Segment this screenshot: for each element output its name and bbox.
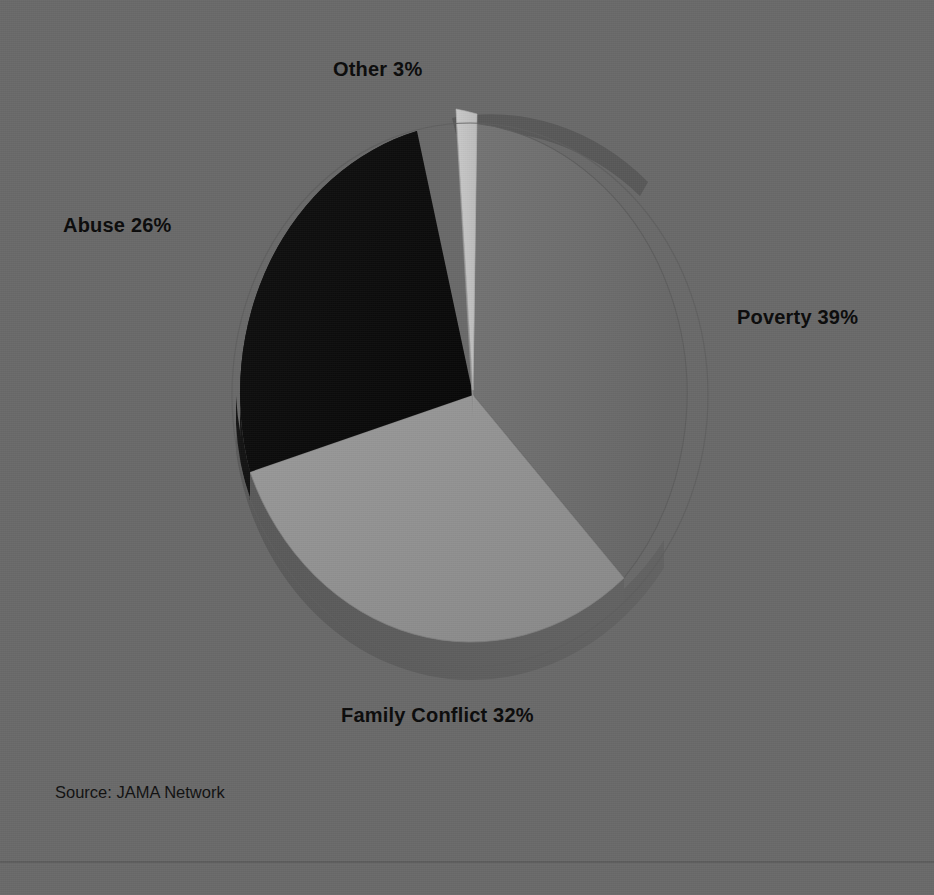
chart-page: Other 3% Abuse 26% Poverty 39% Family Co… (0, 0, 934, 895)
slice-label-family-conflict: Family Conflict 32% (341, 704, 534, 727)
slice-label-abuse: Abuse 26% (63, 214, 172, 237)
source-note: Source: JAMA Network (55, 783, 225, 802)
bottom-divider (0, 861, 934, 863)
slice-label-poverty: Poverty 39% (737, 306, 858, 329)
pie-chart (0, 0, 934, 895)
slice-label-other: Other 3% (333, 58, 422, 81)
